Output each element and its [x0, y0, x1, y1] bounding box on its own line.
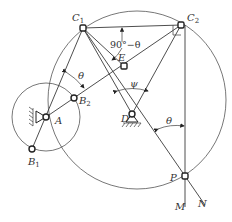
- label-B1: B1: [27, 156, 40, 169]
- joint-B2: [71, 95, 77, 101]
- joint-E: [121, 63, 127, 69]
- label-N: N: [197, 198, 208, 209]
- label-psi: ψ: [130, 78, 138, 89]
- label-D: D: [120, 113, 129, 124]
- joint-C2: [178, 22, 184, 28]
- joint-P: [182, 173, 188, 179]
- label-B2: B2: [78, 95, 91, 108]
- joint-B1: [29, 146, 35, 152]
- label-E: E: [117, 52, 126, 63]
- label-A: A: [54, 115, 62, 126]
- label-P: P: [169, 172, 177, 183]
- joint-D: [129, 111, 135, 117]
- joint-A: [43, 114, 49, 120]
- label-complement: 90°−θ: [110, 39, 141, 50]
- label-theta-P: θ: [166, 115, 172, 126]
- label-M: M: [174, 201, 186, 212]
- diagram-canvas: C1 C2 90°−θ E θ B2 A B1 D ψ θ P M N: [0, 0, 232, 222]
- label-C2: C2: [187, 12, 199, 25]
- labels: C1 C2 90°−θ E θ B2 A B1 D ψ θ P M N: [27, 12, 208, 212]
- joint-C1: [80, 25, 86, 31]
- label-theta-A: θ: [78, 70, 84, 81]
- label-C1: C1: [72, 12, 84, 25]
